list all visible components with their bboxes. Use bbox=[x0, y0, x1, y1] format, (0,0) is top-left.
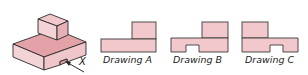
drawing-c-label: Drawing C bbox=[245, 54, 294, 65]
drawing-c bbox=[242, 22, 298, 52]
isometric-object bbox=[13, 14, 86, 70]
object-label-x: X bbox=[79, 56, 86, 67]
drawing-b bbox=[171, 22, 228, 52]
drawing-a bbox=[101, 22, 156, 52]
arrow-head-icon bbox=[65, 61, 71, 66]
drawing-a-label: Drawing A bbox=[103, 54, 152, 65]
drawing-b-label: Drawing B bbox=[173, 54, 222, 65]
